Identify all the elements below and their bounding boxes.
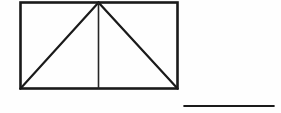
left-diagonal	[21, 3, 99, 89]
right-diagonal	[99, 3, 178, 89]
geometry-figure	[0, 0, 281, 113]
figure-canvas	[0, 0, 281, 113]
